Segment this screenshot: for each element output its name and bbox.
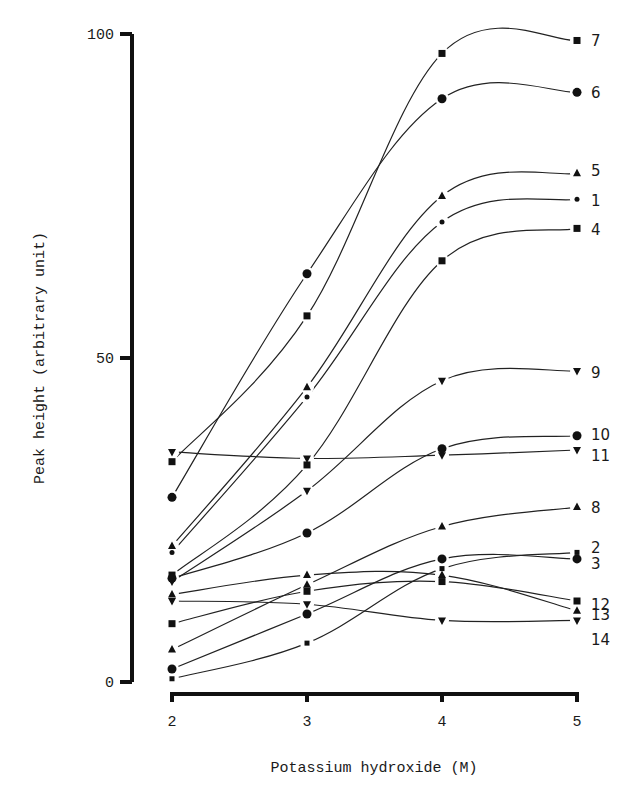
series-label-13: 13 [591, 606, 610, 624]
series-label-8: 8 [591, 499, 601, 517]
marker-square [439, 50, 446, 57]
marker-circle [573, 431, 582, 440]
x-ticks: 2345 [167, 692, 581, 731]
x-axis-title: Potassium hydroxide (M) [270, 760, 477, 777]
series-line-11 [172, 450, 577, 459]
marker-square [169, 620, 176, 627]
axes [132, 34, 577, 694]
marker-circle [303, 528, 312, 537]
marker-circle [573, 554, 582, 563]
series-lines [165, 28, 584, 686]
series-line-4 [172, 228, 577, 575]
marker-square [439, 578, 446, 585]
series-line-12 [172, 581, 577, 624]
marker-small-circle [575, 197, 580, 202]
marker-circle [168, 574, 177, 583]
series-label-4: 4 [591, 221, 601, 239]
marker-square [304, 312, 311, 319]
series-label-5: 5 [591, 162, 601, 180]
marker-circle [303, 609, 312, 618]
marker-square [574, 37, 581, 44]
series-labels: 1234567891011121314 [591, 32, 610, 649]
series-label-14: 14 [591, 631, 610, 649]
marker-small-square [440, 566, 445, 571]
series-label-9: 9 [591, 364, 601, 382]
marker-small-square [170, 676, 175, 681]
series-label-10: 10 [591, 426, 610, 444]
marker-circle [438, 94, 447, 103]
series-line-7 [172, 28, 577, 462]
marker-circle [438, 554, 447, 563]
marker-small-square [305, 641, 310, 646]
series-label-6: 6 [591, 84, 601, 102]
marker-circle [168, 493, 177, 502]
marker-small-circle [170, 550, 175, 555]
marker-small-square [575, 550, 580, 555]
y-axis-title: Peak height (arbitrary unit) [32, 232, 49, 484]
y-tick-label: 100 [87, 27, 114, 44]
series-line-6 [172, 83, 577, 498]
y-tick-label: 0 [105, 675, 114, 692]
x-tick-label: 4 [437, 714, 446, 731]
marker-circle [168, 665, 177, 674]
peak-height-chart: 050100 2345 1234567891011121314 Potassiu… [0, 0, 635, 792]
y-ticks: 050100 [87, 27, 132, 692]
series-line-9 [172, 368, 577, 581]
marker-circle [303, 269, 312, 278]
x-tick-label: 5 [572, 714, 581, 731]
marker-square [169, 458, 176, 465]
marker-small-circle [305, 394, 310, 399]
marker-square [574, 598, 581, 605]
series-label-1: 1 [591, 192, 601, 210]
marker-square [439, 257, 446, 264]
marker-circle [438, 444, 447, 453]
marker-circle [573, 88, 582, 97]
marker-square [574, 225, 581, 232]
series-label-11: 11 [591, 447, 610, 465]
x-tick-label: 2 [167, 714, 176, 731]
series-label-3: 3 [591, 555, 601, 573]
series-label-7: 7 [591, 32, 601, 50]
y-tick-label: 50 [96, 351, 114, 368]
marker-small-circle [440, 219, 445, 224]
x-tick-label: 3 [302, 714, 311, 731]
series-line-1 [172, 199, 577, 553]
marker-square [304, 588, 311, 595]
series-line-8 [172, 507, 577, 650]
